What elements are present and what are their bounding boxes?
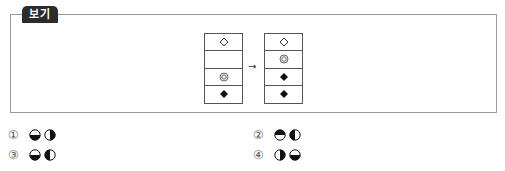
half-bottom-filled-circle-icon — [289, 149, 301, 161]
double-circle-icon — [219, 72, 229, 82]
bogi-label: 보기 — [22, 6, 58, 23]
diamond-filled-icon — [279, 89, 289, 99]
option-glyph — [289, 129, 301, 141]
after-cell-3 — [265, 69, 302, 86]
after-cell-1 — [265, 34, 302, 51]
option-2[interactable]: ② — [253, 127, 301, 143]
option-number: ④ — [253, 148, 271, 162]
option-glyph — [29, 129, 41, 141]
option-glyph — [44, 129, 56, 141]
circle-outline-icon — [205, 0, 242, 134]
half-bottom-filled-circle-icon — [29, 129, 41, 141]
option-3[interactable]: ③ — [8, 147, 56, 163]
diamond-outline-icon — [279, 37, 289, 47]
diamond-filled-icon — [279, 72, 289, 82]
option-glyph — [44, 149, 56, 161]
half-right-filled-circle-icon — [44, 129, 56, 141]
before-cell-2 — [205, 51, 242, 68]
double-circle-icon — [279, 54, 289, 64]
option-glyph — [289, 149, 301, 161]
half-right-filled-circle-icon — [274, 149, 286, 161]
half-left-filled-circle-icon — [44, 149, 56, 161]
before-table — [204, 33, 243, 104]
option-number: ① — [8, 128, 26, 142]
half-bottom-filled-circle-icon — [29, 149, 41, 161]
option-glyph — [274, 149, 286, 161]
after-table — [264, 33, 303, 104]
after-cell-4 — [265, 86, 302, 103]
option-glyph — [29, 149, 41, 161]
option-number: ③ — [8, 148, 26, 162]
option-glyph — [274, 129, 286, 141]
option-4[interactable]: ④ — [253, 147, 301, 163]
half-top-filled-circle-icon — [274, 129, 286, 141]
half-left-filled-circle-icon — [289, 129, 301, 141]
diamond-filled-icon — [219, 89, 229, 99]
option-1[interactable]: ① — [8, 127, 56, 143]
after-cell-2 — [265, 51, 302, 68]
arrow-icon: → — [248, 62, 256, 72]
option-number: ② — [253, 128, 271, 142]
